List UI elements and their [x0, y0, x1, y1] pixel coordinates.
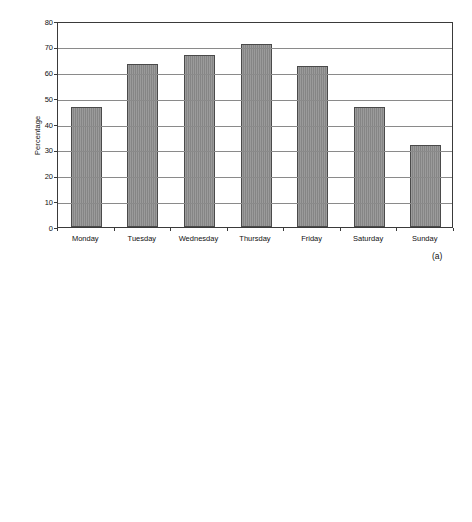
- chart-panel-a: Percentage (a) 01020304050607080MondayTu…: [0, 0, 472, 270]
- x-axis-tick-label: Sunday: [396, 234, 453, 243]
- y-axis-tick-label: 0: [36, 224, 53, 233]
- y-axis-tick-label: 80: [36, 18, 53, 27]
- y-axis-tick-mark: [54, 125, 57, 126]
- y-axis-tick-mark: [54, 177, 57, 178]
- y-axis-tick-mark: [54, 22, 57, 23]
- y-axis-tick-label: 60: [36, 69, 53, 78]
- y-axis-tick-label: 20: [36, 172, 53, 181]
- y-axis-tick-label: 50: [36, 95, 53, 104]
- y-axis-tick-label: 70: [36, 43, 53, 52]
- x-axis-tick-mark: [114, 228, 115, 231]
- gridline: [58, 203, 452, 204]
- x-axis-tick-mark: [396, 228, 397, 231]
- y-axis-tick-mark: [54, 48, 57, 49]
- bar: [241, 44, 272, 227]
- plot-area-a: [57, 22, 453, 228]
- x-axis-tick-mark: [227, 228, 228, 231]
- gridline: [58, 151, 452, 152]
- x-axis-tick-mark: [340, 228, 341, 231]
- y-axis-tick-label: 30: [36, 146, 53, 155]
- gridline: [58, 126, 452, 127]
- x-axis-tick-label: Monday: [57, 234, 114, 243]
- gridline: [58, 74, 452, 75]
- figure-page: Percentage (a) 01020304050607080MondayTu…: [0, 0, 472, 522]
- y-axis-tick-label: 10: [36, 198, 53, 207]
- y-axis-tick-mark: [54, 151, 57, 152]
- y-axis-tick-mark: [54, 202, 57, 203]
- x-axis-tick-label: Friday: [283, 234, 340, 243]
- bar: [410, 145, 441, 227]
- y-axis-tick-mark: [54, 99, 57, 100]
- x-axis-tick-label: Tuesday: [114, 234, 171, 243]
- x-axis-tick-mark: [170, 228, 171, 231]
- y-axis-tick-mark: [54, 74, 57, 75]
- gridline: [58, 177, 452, 178]
- x-axis-tick-label: Saturday: [340, 234, 397, 243]
- chart-panel-b: Percentage (b) 020406080100MondayTuesday…: [0, 270, 472, 522]
- x-axis-tick-label: Thursday: [227, 234, 284, 243]
- gridline: [58, 100, 452, 101]
- x-axis-tick-mark: [57, 228, 58, 231]
- x-axis-tick-mark: [283, 228, 284, 231]
- x-axis-tick-label: Wednesday: [170, 234, 227, 243]
- y-axis-tick-label: 40: [36, 121, 53, 130]
- gridline: [58, 48, 452, 49]
- bar: [184, 55, 215, 227]
- x-axis-tick-mark: [453, 228, 454, 231]
- panel-label-a: (a): [432, 251, 442, 261]
